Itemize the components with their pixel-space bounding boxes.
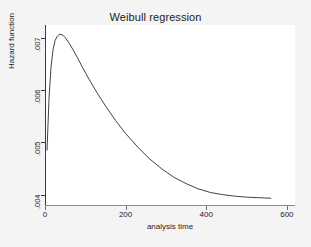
y-tick-label-wrap: .007	[24, 38, 38, 39]
y-axis-line	[45, 25, 46, 206]
hazard-function-line	[47, 34, 271, 198]
x-tick-label: 600	[272, 210, 302, 219]
y-tick-label: .004	[34, 194, 43, 209]
y-axis-title: Hazard function	[7, 13, 16, 69]
x-tick-label: 0	[30, 210, 60, 219]
y-tick-label-wrap: .006	[24, 90, 38, 91]
x-tick-label: 200	[111, 210, 141, 219]
y-tick-label: .007	[34, 38, 43, 53]
y-tick-label-wrap: .005	[24, 142, 38, 143]
x-axis-line	[45, 205, 295, 206]
plot-area	[45, 25, 295, 205]
weibull-regression-figure: Weibull regression .004.005.006.007 0200…	[0, 0, 311, 247]
figure-canvas: Weibull regression .004.005.006.007 0200…	[0, 0, 311, 247]
y-tick-label-wrap: .004	[24, 195, 38, 196]
x-tick-label: 400	[191, 210, 221, 219]
x-axis-title: analysis time	[45, 222, 295, 231]
y-tick-label: .006	[34, 90, 43, 105]
chart-title: Weibull regression	[0, 11, 311, 23]
hazard-function-curve	[45, 25, 295, 205]
y-tick-label: .005	[34, 142, 43, 157]
